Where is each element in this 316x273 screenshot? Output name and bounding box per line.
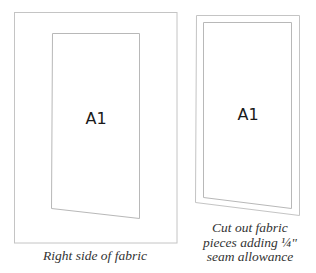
caption-line: pieces adding ¼"	[190, 236, 310, 251]
caption-line: seam allowance	[190, 250, 310, 265]
piece-label-right: A1	[237, 105, 258, 124]
caption-cut-out-fabric: Cut out fabric pieces adding ¼" seam all…	[190, 221, 310, 265]
piece-label-left: A1	[85, 109, 106, 128]
caption-right-side-of-fabric: Right side of fabric	[20, 249, 170, 264]
caption-line: Cut out fabric	[190, 221, 310, 236]
